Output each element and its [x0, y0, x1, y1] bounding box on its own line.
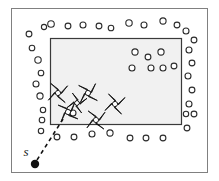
boundary-circle: [183, 111, 188, 116]
boundary-circle: [141, 22, 147, 28]
diagram-canvas: s: [0, 0, 219, 181]
boundary-circle: [54, 134, 60, 140]
boundary-circle: [174, 22, 180, 28]
interior-circle: [129, 65, 135, 71]
boundary-circle: [37, 93, 43, 99]
boundary-circle: [41, 24, 46, 29]
boundary-circle: [40, 107, 45, 112]
boundary-circle: [184, 125, 190, 131]
sensor-coverage-diagram: s: [0, 0, 219, 181]
boundary-circle: [96, 23, 102, 29]
boundary-circle: [33, 81, 39, 87]
boundary-circle: [186, 47, 192, 53]
boundary-circle: [189, 87, 195, 93]
robot-center: [85, 90, 91, 96]
boundary-circle: [89, 131, 95, 137]
robot-center: [112, 101, 118, 107]
boundary-circle: [160, 135, 166, 141]
start-point-marker: [31, 160, 39, 168]
boundary-circle: [108, 25, 114, 31]
boundary-circle: [186, 101, 192, 107]
interior-circle: [148, 65, 154, 71]
boundary-circle: [189, 60, 195, 66]
interior-circle: [171, 63, 177, 69]
boundary-circle: [38, 128, 43, 133]
boundary-circle: [126, 20, 132, 26]
interior-circle: [145, 54, 151, 60]
boundary-circle: [71, 134, 77, 140]
boundary-circle: [191, 37, 197, 43]
boundary-circle: [35, 57, 41, 63]
boundary-circle: [38, 70, 44, 76]
boundary-circle: [191, 111, 197, 117]
boundary-circle: [80, 22, 86, 28]
boundary-circle: [65, 23, 71, 29]
boundary-circle: [48, 21, 55, 28]
boundary-circle: [29, 45, 35, 51]
robot-center: [55, 90, 61, 96]
start-point-label: s: [23, 144, 28, 159]
boundary-circle: [127, 135, 133, 141]
robot-center: [93, 117, 99, 123]
boundary-circle: [39, 117, 45, 123]
boundary-circle: [160, 18, 166, 24]
boundary-circle: [107, 130, 113, 136]
boundary-circle: [185, 73, 191, 79]
boundary-circle: [143, 135, 149, 141]
boundary-circle: [26, 31, 32, 37]
interior-circle: [158, 49, 164, 55]
robot-center: [65, 109, 71, 115]
boundary-circle: [183, 28, 189, 34]
interior-circle: [160, 65, 166, 71]
interior-circle: [132, 49, 138, 55]
